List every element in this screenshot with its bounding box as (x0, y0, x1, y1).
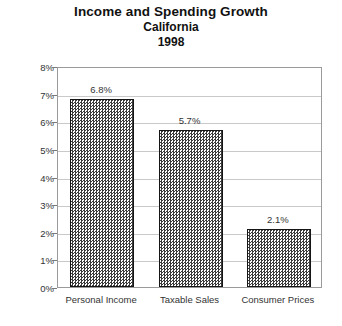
bar-value-label: 6.8% (71, 84, 131, 95)
bar (247, 229, 311, 287)
plot-area (57, 67, 322, 288)
gridline (58, 96, 321, 97)
bar-value-label: 5.7% (160, 115, 220, 126)
x-axis-category-label: Consumer Prices (223, 294, 333, 305)
y-tick-label: 3% (14, 200, 54, 211)
bar-value-label: 2.1% (248, 214, 308, 225)
bar (159, 130, 223, 287)
y-tick-label: 5% (14, 144, 54, 155)
y-tick-label: 0% (14, 283, 54, 294)
bar-chart: Income and Spending Growth California 19… (0, 0, 342, 326)
bar (70, 99, 134, 287)
page-title: Income and Spending Growth (0, 5, 342, 19)
y-tick-label: 7% (14, 89, 54, 100)
y-tick-label: 8% (14, 62, 54, 73)
y-tick-mark (52, 288, 57, 289)
y-tick-label: 6% (14, 117, 54, 128)
chart-subtitle-year: 1998 (0, 36, 342, 49)
y-tick-label: 1% (14, 255, 54, 266)
y-tick-label: 2% (14, 227, 54, 238)
chart-subtitle-region: California (0, 21, 342, 34)
chart-title-block: Income and Spending Growth California 19… (0, 5, 342, 48)
y-tick-label: 4% (14, 172, 54, 183)
